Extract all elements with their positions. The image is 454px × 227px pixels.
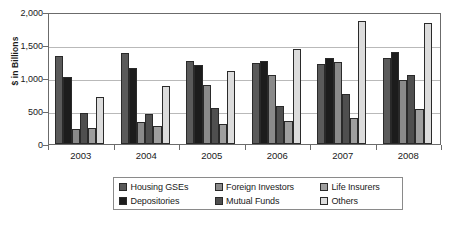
bar[interactable]: [260, 61, 268, 144]
legend-item[interactable]: Housing GSEs: [119, 180, 215, 194]
x-tick-mark: [179, 145, 180, 150]
bar-group: [186, 14, 235, 144]
bar[interactable]: [211, 108, 219, 144]
legend-label: Mutual Funds: [226, 196, 279, 206]
legend-label: Foreign Investors: [226, 182, 294, 192]
legend-item[interactable]: Life Insurers: [320, 180, 398, 194]
y-tick-label: 500: [2, 107, 43, 117]
legend-item[interactable]: Others: [320, 194, 398, 208]
legend-label: Life Insurers: [331, 182, 379, 192]
x-tick-mark: [114, 145, 115, 150]
bar[interactable]: [137, 122, 145, 144]
bar[interactable]: [317, 64, 325, 144]
bar[interactable]: [252, 63, 260, 144]
bar[interactable]: [162, 86, 170, 144]
bar[interactable]: [153, 126, 161, 144]
x-tick-label: 2004: [122, 150, 170, 161]
bar[interactable]: [358, 21, 366, 144]
x-tick-mark: [245, 145, 246, 150]
legend-item[interactable]: Foreign Investors: [215, 180, 320, 194]
bar[interactable]: [383, 58, 391, 144]
bar[interactable]: [96, 97, 104, 144]
bar[interactable]: [194, 65, 202, 144]
plot-area: [48, 13, 441, 145]
bar[interactable]: [72, 129, 80, 144]
bar[interactable]: [407, 75, 415, 144]
x-tick-label: 2006: [253, 150, 301, 161]
bar[interactable]: [415, 109, 423, 144]
y-tick-label: 1,000: [2, 74, 43, 84]
bar[interactable]: [276, 106, 284, 144]
bar[interactable]: [284, 121, 292, 144]
bar[interactable]: [424, 23, 432, 144]
bar[interactable]: [350, 118, 358, 144]
bar-group: [55, 14, 104, 144]
y-axis-title: $ in Billions: [10, 26, 20, 96]
bar[interactable]: [293, 49, 301, 144]
legend-swatch-icon: [119, 183, 127, 191]
legend-label: Depositories: [131, 196, 180, 206]
bar[interactable]: [203, 85, 211, 144]
bar[interactable]: [399, 80, 407, 144]
bar[interactable]: [227, 71, 235, 144]
legend-row: DepositoriesMutual FundsOthers: [119, 194, 398, 208]
bar-group: [317, 14, 366, 144]
legend-label: Others: [331, 196, 357, 206]
y-tick-label: 0: [2, 140, 43, 150]
bar[interactable]: [325, 58, 333, 144]
x-tick-mark: [48, 145, 49, 150]
bar[interactable]: [186, 61, 194, 144]
legend-swatch-icon: [215, 197, 223, 205]
bar[interactable]: [121, 53, 129, 144]
y-tick-label: 2,000: [2, 8, 43, 18]
y-tick-label: 1,500: [2, 41, 43, 51]
x-tick-label: 2005: [188, 150, 236, 161]
legend-label: Housing GSEs: [131, 182, 189, 192]
bar[interactable]: [55, 56, 63, 144]
bar[interactable]: [268, 75, 276, 144]
bar-group: [252, 14, 301, 144]
x-tick-mark: [310, 145, 311, 150]
bar[interactable]: [145, 114, 153, 144]
legend-row: Housing GSEsForeign InvestorsLife Insure…: [119, 180, 398, 194]
x-tick-label: 2008: [384, 150, 432, 161]
legend-item[interactable]: Depositories: [119, 194, 215, 208]
bar-group: [121, 14, 170, 144]
legend-item[interactable]: Mutual Funds: [215, 194, 320, 208]
legend-swatch-icon: [215, 183, 223, 191]
bar[interactable]: [342, 94, 350, 144]
bar[interactable]: [63, 77, 71, 144]
chart-title: [10, 0, 444, 2]
bar[interactable]: [219, 124, 227, 144]
bar[interactable]: [88, 128, 96, 145]
x-tick-label: 2007: [319, 150, 367, 161]
bar[interactable]: [80, 113, 88, 144]
legend-swatch-icon: [119, 197, 127, 205]
bar[interactable]: [391, 52, 399, 144]
legend-swatch-icon: [320, 197, 328, 205]
legend-swatch-icon: [320, 183, 328, 191]
x-tick-mark: [376, 145, 377, 150]
x-tick-mark: [441, 145, 442, 150]
bar-series-container: [49, 14, 440, 144]
x-tick-label: 2003: [57, 150, 105, 161]
chart-legend: Housing GSEsForeign InvestorsLife Insure…: [113, 177, 403, 210]
bar-group: [383, 14, 432, 144]
bar[interactable]: [334, 62, 342, 145]
bar[interactable]: [129, 68, 137, 144]
